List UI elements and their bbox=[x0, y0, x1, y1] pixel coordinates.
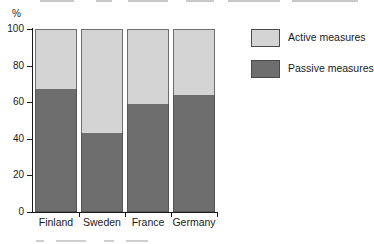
legend-item-active[interactable]: Active measures bbox=[251, 27, 363, 51]
y-tick-label: 60 bbox=[0, 97, 24, 107]
y-tick-label: 100 bbox=[0, 24, 24, 34]
y-tick-mark bbox=[27, 29, 32, 30]
y-tick-label: 40 bbox=[0, 134, 24, 144]
y-tick-mark bbox=[27, 139, 32, 140]
bar-stack-sweden[interactable] bbox=[81, 29, 123, 212]
y-tick-label: 80 bbox=[0, 61, 24, 71]
y-tick-label: 0 bbox=[0, 207, 24, 217]
plot-area bbox=[33, 29, 217, 212]
y-tick-label: 20 bbox=[0, 170, 24, 180]
chart-legend: Active measures Passive measures bbox=[251, 27, 363, 89]
bar-segment-active[interactable] bbox=[173, 29, 215, 95]
bar-stack-finland[interactable] bbox=[35, 29, 77, 212]
x-category-label-germany: Germany bbox=[167, 216, 221, 228]
bar-segment-passive[interactable] bbox=[127, 104, 169, 212]
legend-item-passive[interactable]: Passive measures bbox=[251, 58, 363, 82]
bar-stack-germany[interactable] bbox=[173, 29, 215, 212]
legend-label-active: Active measures bbox=[288, 31, 366, 44]
bar-segment-active[interactable] bbox=[81, 29, 123, 133]
bar-segment-active[interactable] bbox=[127, 29, 169, 104]
legend-label-passive: Passive measures bbox=[288, 62, 374, 75]
bar-stack-france[interactable] bbox=[127, 29, 169, 212]
y-tick-mark bbox=[27, 102, 32, 103]
bar-segment-passive[interactable] bbox=[35, 89, 77, 212]
bar-segment-passive[interactable] bbox=[173, 95, 215, 212]
y-tick-mark bbox=[27, 212, 32, 213]
y-tick-mark bbox=[27, 175, 32, 176]
y-tick-mark bbox=[27, 66, 32, 67]
legend-swatch-passive-icon bbox=[251, 60, 280, 78]
legend-swatch-active-icon bbox=[251, 29, 280, 47]
y-axis-unit-label: % bbox=[12, 8, 21, 19]
bar-segment-active[interactable] bbox=[35, 29, 77, 89]
bar-segment-passive[interactable] bbox=[81, 133, 123, 212]
clipped-source-note-below-figure bbox=[0, 238, 364, 244]
